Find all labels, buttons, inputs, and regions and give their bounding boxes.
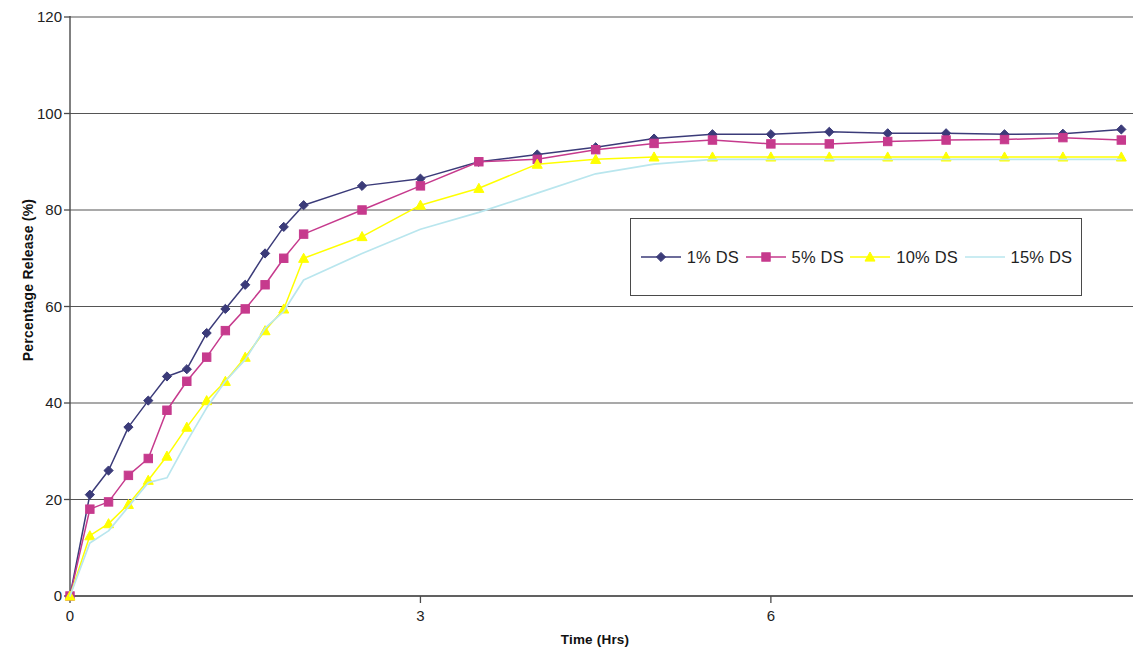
legend-item: 5% DS [745, 248, 844, 267]
data-point-marker [942, 136, 950, 144]
data-point-marker [182, 365, 191, 374]
data-point-marker [357, 232, 367, 241]
legend-item: 10% DS [849, 248, 958, 267]
data-point-marker [299, 230, 307, 238]
data-point-marker [144, 454, 152, 462]
data-point-marker [86, 505, 94, 513]
data-point-marker [474, 183, 484, 192]
data-point-marker [85, 531, 95, 540]
data-point-marker [475, 158, 483, 166]
legend-item: 1% DS [640, 248, 739, 267]
data-point-marker [1117, 125, 1126, 134]
data-point-marker [183, 377, 191, 385]
data-point-marker [241, 305, 249, 313]
data-point-marker [202, 353, 210, 361]
plot-area [0, 0, 1133, 652]
data-point-marker [767, 140, 775, 148]
legend-swatch-none-icon [964, 249, 1006, 265]
legend-label: 15% DS [1011, 248, 1073, 267]
series-line [70, 138, 1121, 596]
data-point-marker [357, 181, 366, 190]
data-point-marker [650, 139, 658, 147]
legend: 1% DS5% DS10% DS15% DS [630, 218, 1082, 296]
data-point-marker [358, 206, 366, 214]
data-point-marker [825, 127, 834, 136]
data-point-marker [163, 406, 171, 414]
data-point-marker [260, 249, 269, 258]
legend-label: 10% DS [896, 248, 958, 267]
data-point-marker [162, 451, 172, 460]
data-point-marker [1000, 135, 1008, 143]
data-point-marker [1117, 136, 1125, 144]
data-point-marker [708, 136, 716, 144]
data-point-marker [591, 145, 599, 153]
chart-container: Percentage Release (%) 020406080100120 0… [0, 0, 1133, 652]
data-point-marker [416, 182, 424, 190]
legend-swatch-diamond-icon [640, 249, 682, 265]
legend-label: 5% DS [792, 248, 844, 267]
legend-items: 1% DS5% DS10% DS15% DS [631, 219, 1081, 295]
data-point-marker [280, 254, 288, 262]
data-point-marker [221, 326, 229, 334]
data-point-marker [761, 253, 769, 261]
data-point-marker [124, 471, 132, 479]
data-point-marker [656, 252, 665, 261]
data-point-marker [1059, 133, 1067, 141]
data-point-marker [883, 129, 892, 138]
legend-item: 15% DS [964, 248, 1073, 267]
data-point-marker [825, 140, 833, 148]
data-point-marker [299, 253, 309, 262]
series-1-ds [65, 125, 1126, 601]
data-point-marker [883, 137, 891, 145]
legend-swatch-triangle-icon [849, 249, 891, 265]
data-point-marker [104, 498, 112, 506]
data-point-marker [261, 281, 269, 289]
gridlines [70, 17, 1133, 596]
series-line [70, 129, 1121, 596]
legend-label: 1% DS [687, 248, 739, 267]
series-5-ds [66, 133, 1126, 600]
data-point-marker [766, 130, 775, 139]
legend-swatch-square-icon [745, 249, 787, 265]
